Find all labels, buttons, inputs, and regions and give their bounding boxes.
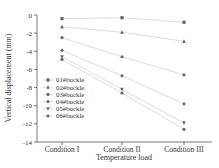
- y-tick-label: -14: [23, 139, 33, 147]
- data-point-marker: [182, 21, 185, 24]
- legend-label: 06#buckle: [56, 112, 84, 119]
- y-tick-label: -10: [23, 102, 33, 110]
- data-point-marker: [46, 78, 49, 81]
- data-point-marker: [60, 48, 64, 52]
- legend-label: 03#buckle: [56, 91, 84, 98]
- x-axis-label: Temperature load: [96, 153, 152, 162]
- y-axis-label: Vertical displacement (mm): [4, 33, 13, 122]
- data-point-marker: [182, 73, 185, 76]
- legend-label: 01#buckle: [56, 76, 84, 83]
- data-point-marker: [46, 100, 50, 104]
- y-ticks: 0-2-4-6-8-10-12-14: [23, 12, 37, 147]
- data-point-marker: [120, 16, 123, 19]
- y-tick-label: -12: [23, 120, 33, 128]
- y-tick-label: -4: [26, 48, 32, 56]
- legend-label: 05#buckle: [56, 105, 84, 112]
- data-point-marker: [120, 55, 123, 58]
- legend-label: 04#buckle: [56, 98, 84, 105]
- y-tick-label: -2: [26, 30, 32, 38]
- data-point-marker: [60, 17, 63, 20]
- data-point-marker: [182, 128, 185, 131]
- data-point-marker: [46, 93, 49, 96]
- data-point-marker: [60, 58, 63, 61]
- data-point-marker: [182, 121, 186, 125]
- legend: 01#buckle02#buckle03#buckle04#buckle05#b…: [43, 76, 84, 119]
- data-point-marker: [182, 102, 186, 106]
- y-tick-label: -6: [26, 66, 32, 74]
- data-point-marker: [120, 91, 123, 94]
- series-line: [62, 27, 184, 42]
- legend-label: 02#buckle: [56, 84, 84, 91]
- y-tick-label: 0: [29, 12, 33, 20]
- line-chart: 0-2-4-6-8-10-12-14 Condition ICondition …: [0, 0, 219, 168]
- x-tick-label: Condition I: [45, 145, 80, 154]
- data-point-marker: [46, 114, 49, 117]
- data-point-marker: [60, 36, 63, 39]
- data-point-marker: [120, 74, 124, 78]
- y-tick-label: -8: [26, 84, 32, 92]
- x-tick-label: Condition III: [164, 145, 204, 154]
